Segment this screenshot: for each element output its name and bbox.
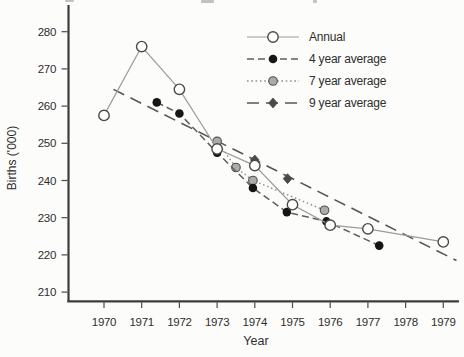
- x-axis-title: Year: [243, 334, 268, 348]
- y-tick-label: 270: [38, 63, 56, 75]
- chart-svg: 2102202302402502602702801970197119721973…: [0, 0, 464, 357]
- gray-circle-marker: [249, 176, 258, 185]
- x-tick-label: 1972: [167, 316, 191, 328]
- y-tick-label: 230: [38, 212, 56, 224]
- diamond-marker: [269, 98, 278, 108]
- y-tick-label: 210: [38, 286, 56, 298]
- x-tick-label: 1977: [356, 316, 380, 328]
- open-circle-marker: [287, 199, 297, 209]
- x-tick-label: 1975: [280, 316, 304, 328]
- y-tick-label: 280: [38, 26, 56, 38]
- births-moving-average-chart: 2102202302402502602702801970197119721973…: [0, 0, 464, 357]
- filled-circle-marker: [249, 184, 258, 193]
- open-circle-marker: [325, 220, 335, 230]
- legend-item-4-year-average: 4 year average: [247, 52, 387, 66]
- y-tick-label: 250: [38, 137, 56, 149]
- x-tick-label: 1970: [92, 316, 116, 328]
- y-tick-label: 240: [38, 175, 56, 187]
- axes: [67, 5, 459, 302]
- series-annual: [99, 41, 449, 247]
- filled-circle-marker: [269, 55, 278, 64]
- gray-circle-marker: [320, 206, 329, 215]
- y-tick-label: 220: [38, 249, 56, 261]
- legend-label: Annual: [309, 30, 345, 44]
- open-circle-marker: [212, 144, 222, 154]
- y-axis-title: Births ('000): [5, 126, 19, 190]
- open-circle-marker: [268, 32, 278, 42]
- y-tick-label: 260: [38, 100, 56, 112]
- legend-label: 4 year average: [309, 52, 387, 66]
- open-circle-marker: [438, 237, 448, 247]
- open-circle-marker: [363, 224, 373, 234]
- x-tick-label: 1971: [130, 316, 154, 328]
- x-tick-label: 1979: [431, 316, 455, 328]
- legend-item-9-year-average: 9 year average: [247, 96, 387, 110]
- legend-label: 9 year average: [309, 96, 387, 110]
- series-7-year-average: [213, 137, 329, 214]
- open-circle-marker: [174, 84, 184, 94]
- x-tick-label: 1974: [243, 316, 268, 328]
- filled-circle-marker: [375, 241, 384, 250]
- legend-item-7-year-average: 7 year average: [247, 74, 387, 88]
- filled-circle-marker: [175, 109, 184, 118]
- gray-circle-marker: [269, 77, 278, 86]
- filled-circle-marker: [152, 98, 161, 107]
- open-circle-marker: [250, 160, 260, 170]
- x-tick-label: 1978: [393, 316, 417, 328]
- open-circle-marker: [137, 41, 147, 51]
- x-tick-label: 1976: [318, 316, 342, 328]
- open-circle-marker: [99, 110, 109, 120]
- y-axis-ticks: 210220230240250260270280: [38, 26, 68, 298]
- legend: Annual4 year average7 year average9 year…: [247, 30, 387, 110]
- legend-item-annual: Annual: [247, 30, 345, 44]
- legend-label: 7 year average: [309, 74, 387, 88]
- x-axis-ticks: 1970197119721973197419751976197719781979: [92, 302, 456, 327]
- x-tick-label: 1973: [205, 316, 229, 328]
